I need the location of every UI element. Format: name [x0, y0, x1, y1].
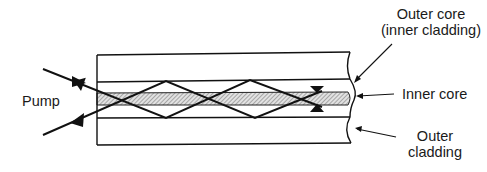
outer-core-label-line2: (inner cladding): [376, 22, 486, 38]
outer-core-label-line1: Outer core: [376, 6, 486, 22]
outer-cladding-label-line1: Outer: [400, 128, 470, 144]
outer-cladding-label-line2: cladding: [400, 144, 470, 160]
leader-lines: [356, 44, 396, 137]
outer-cladding-label: Outer cladding: [400, 128, 470, 160]
outer-core-label: Outer core (inner cladding): [376, 6, 486, 38]
inner-core-label: Inner core: [402, 86, 467, 102]
arrow-icon: [70, 113, 84, 127]
pump-label: Pump: [22, 93, 60, 109]
